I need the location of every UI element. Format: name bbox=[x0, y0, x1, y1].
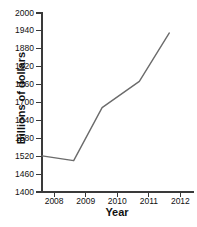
x-axis-tick-label: 2010 bbox=[100, 197, 134, 206]
y-axis-tick-label: 1760 bbox=[0, 80, 34, 89]
x-axis-tick-label: 2012 bbox=[163, 197, 197, 206]
y-axis-tick bbox=[36, 120, 41, 121]
y-axis-line bbox=[41, 12, 43, 193]
series-line-billions-of-dollars bbox=[42, 33, 169, 161]
y-axis-tick-label: 1640 bbox=[0, 116, 34, 125]
y-axis-tick bbox=[36, 191, 41, 192]
y-axis-tick-label: 1520 bbox=[0, 152, 34, 161]
y-axis-tick bbox=[36, 66, 41, 67]
y-axis-tick bbox=[36, 12, 41, 13]
y-axis-tick-label: 1700 bbox=[0, 98, 34, 107]
y-axis-tick-label: 2000 bbox=[0, 9, 34, 18]
x-axis-tick-label: 2009 bbox=[69, 197, 103, 206]
x-axis-tick-label: 2011 bbox=[132, 197, 166, 206]
x-axis-tick-label: 2008 bbox=[37, 197, 71, 206]
y-axis-tick-label: 1940 bbox=[0, 26, 34, 35]
y-axis-tick bbox=[36, 102, 41, 103]
y-axis-tick-label: 1460 bbox=[0, 170, 34, 179]
y-axis-tick bbox=[36, 138, 41, 139]
y-axis-tick-label: 1820 bbox=[0, 62, 34, 71]
y-axis-tick-label: 1580 bbox=[0, 134, 34, 143]
y-axis-tick bbox=[36, 174, 41, 175]
y-axis-tick-label: 1400 bbox=[0, 188, 34, 197]
y-axis-tick bbox=[36, 156, 41, 157]
y-axis-tick-label: 1880 bbox=[0, 44, 34, 53]
line-chart: Billions of dollars 20001940188018201760… bbox=[0, 0, 197, 227]
y-axis-tick bbox=[36, 84, 41, 85]
y-axis-tick bbox=[36, 48, 41, 49]
y-axis-tick bbox=[36, 30, 41, 31]
x-axis-title: Year bbox=[41, 206, 193, 218]
